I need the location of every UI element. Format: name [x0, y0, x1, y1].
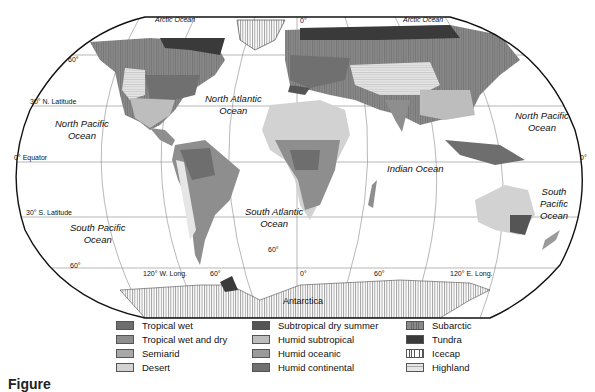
legend-item-tundra: Tundra: [406, 332, 472, 346]
ocean-label-arctic-east: Arctic Ocean: [403, 16, 443, 23]
legend-item-humid-continental: Humid continental: [252, 360, 378, 374]
legend-item-icecap: Icecap: [406, 346, 472, 360]
ocean-label-north-pacific-east: North PacificOcean: [515, 110, 569, 134]
swatch-subtropical-dry-summer: [252, 321, 270, 330]
legend-column-3: Subarctic Tundra Icecap Highland: [406, 318, 472, 374]
lon-label-120w: 120° W. Long.: [143, 270, 187, 277]
swatch-semiarid: [116, 349, 134, 358]
lon-label-0: 0°: [300, 270, 307, 277]
lon-label-120e: 120° E. Long.: [450, 270, 493, 277]
lat-label-equator-right: 0°: [580, 154, 587, 161]
legend-column-1: Tropical wet Tropical wet and dry Semiar…: [116, 318, 227, 374]
ocean-label-north-pacific-west: North PacificOcean: [55, 118, 109, 142]
legend-item-highland: Highland: [406, 360, 472, 374]
swatch-tundra: [406, 335, 424, 344]
legend-item-desert: Desert: [116, 360, 227, 374]
swatch-humid-continental: [252, 363, 270, 372]
swatch-icecap: [406, 349, 424, 358]
swatch-tropical-wet: [116, 321, 134, 330]
figure-caption: Figure: [8, 376, 51, 392]
lat-label-30n: 30° N. Latitude: [30, 98, 76, 105]
swatch-humid-oceanic: [252, 349, 270, 358]
lon-label-60w: 60°: [210, 270, 221, 277]
ocean-label-indian: Indian Ocean: [387, 163, 444, 175]
legend-item-humid-oceanic: Humid oceanic: [252, 346, 378, 360]
lat-label-60n: 60°: [68, 56, 79, 63]
lat-label-60s: 60°: [70, 262, 81, 269]
lon-label-0-top: 0°: [300, 17, 307, 24]
swatch-subarctic: [406, 321, 424, 330]
legend-item-semiarid: Semiarid: [116, 346, 227, 360]
ocean-label-arctic-west: Arctic Ocean: [155, 16, 195, 23]
swatch-tropical-wet-dry: [116, 335, 134, 344]
legend-item-subtropical-dry-summer: Subtropical dry summer: [252, 318, 378, 332]
legend-item-tropical-wet: Tropical wet: [116, 318, 227, 332]
lat-label-equator: 0° Equator: [14, 154, 47, 161]
ocean-label-south-pacific-west: South PacificOcean: [70, 222, 125, 246]
legend-item-tropical-wet-dry: Tropical wet and dry: [116, 332, 227, 346]
lon-label-60e: 60°: [374, 270, 385, 277]
lat-label-30s: 30° S. Latitude: [26, 209, 72, 216]
swatch-highland: [406, 363, 424, 372]
ocean-label-north-atlantic: North AtlanticOcean: [205, 93, 262, 117]
legend-item-subarctic: Subarctic: [406, 318, 472, 332]
legend-item-humid-subtropical: Humid subtropical: [252, 332, 378, 346]
swatch-desert: [116, 363, 134, 372]
lat-label-60s-mid: 60°: [268, 246, 279, 253]
swatch-humid-subtropical: [252, 335, 270, 344]
legend-column-2: Subtropical dry summer Humid subtropical…: [252, 318, 378, 374]
ocean-label-south-atlantic: South AtlanticOcean: [245, 206, 303, 230]
continent-label-antarctica: Antarctica: [283, 295, 323, 307]
ocean-label-south-pacific-east: SouthPacificOcean: [540, 186, 568, 222]
